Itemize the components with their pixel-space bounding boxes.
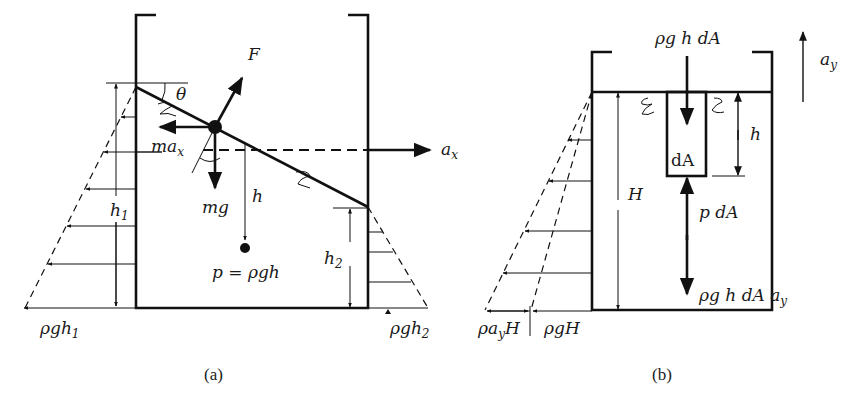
label-rho-g-h2: ρgh2 (389, 318, 429, 341)
label-h2: h2 (324, 248, 343, 271)
free-surface-symbol-b2 (712, 98, 724, 113)
free-surface-symbol-b1 (642, 98, 654, 115)
theta-angle-arc (162, 83, 165, 100)
label-p-dA: p dA (699, 202, 738, 222)
label-inertia-force: ρg h dA ay (698, 285, 787, 308)
label-F: F (247, 44, 261, 64)
label-ma-x: max (151, 136, 184, 159)
caption-a: (a) (204, 365, 223, 384)
label-rho-ay-H: ρayH (477, 318, 521, 341)
fluid-acceleration-diagram: F θ max ax mg h h1 h2 p = ρgh ρgh1 ρgh2 … (0, 0, 853, 408)
panel-a: F θ max ax mg h h1 h2 p = ρgh ρgh1 ρgh2 … (24, 15, 458, 384)
label-pressure-eq: p = ρgh (212, 262, 280, 282)
label-a-y: ay (820, 49, 837, 72)
left-pressure-arrows-b (503, 140, 592, 273)
label-a-x: ax (441, 139, 458, 162)
label-theta: θ (176, 84, 186, 104)
label-top-force: ρg h dA (654, 28, 721, 48)
panel-b: ρg h dA ay h dA H p dA ρg h dA ay ρayH ρ… (477, 28, 837, 384)
pressure-envelope-gravity (531, 92, 592, 310)
right-pressure-envelope (368, 207, 428, 308)
force-F-arrow (215, 78, 242, 127)
depth-point (240, 243, 250, 253)
label-mg: mg (202, 197, 229, 217)
label-rho-g-h1: ρgh1 (39, 318, 79, 341)
pressure-envelope-total (485, 92, 592, 310)
right-small-marker (385, 309, 391, 314)
label-rho-g-H: ρgH (543, 318, 581, 338)
label-dA: dA (671, 150, 695, 170)
label-h-b: h (750, 124, 761, 144)
right-pressure-lines (368, 232, 428, 308)
normal-angle-arc (200, 158, 220, 162)
label-h: h (252, 186, 263, 206)
label-H: H (627, 184, 644, 204)
caption-b: (b) (652, 365, 672, 384)
